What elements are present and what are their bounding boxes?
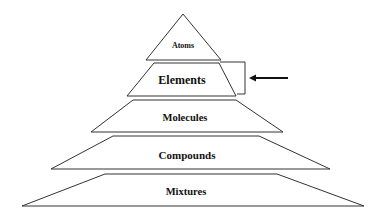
arrow-left-icon	[249, 75, 288, 82]
level-label-elements: Elements	[158, 73, 205, 88]
level-label-mixtures: Mixtures	[166, 186, 207, 197]
level-label-molecules: Molecules	[163, 112, 208, 123]
level-label-atoms: Atoms	[172, 41, 194, 50]
pyramid-shapes	[0, 0, 383, 216]
pyramid-diagram: Atoms Elements Molecules Compounds Mixtu…	[0, 0, 383, 216]
level-atoms-shape	[146, 14, 221, 60]
level-label-compounds: Compounds	[159, 149, 216, 161]
